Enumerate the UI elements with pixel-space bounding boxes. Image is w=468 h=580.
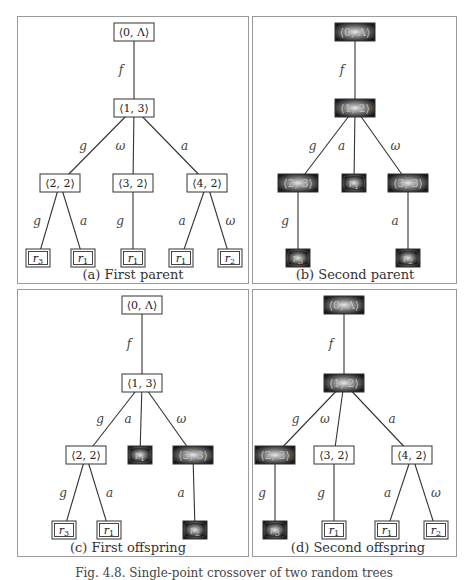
figure-caption: Fig. 4.8. Single-point crossover of two … [0, 566, 468, 580]
node-label: ⟨3, 2⟩ [319, 449, 349, 462]
leaf-node: r1 [169, 249, 193, 267]
tree-node: ⟨2, 2⟩ [40, 174, 80, 192]
edge [334, 383, 344, 455]
edge-label: g [292, 412, 300, 426]
tree-node: ⟨1, 3⟩ [114, 99, 154, 117]
edge-label: ω [116, 139, 126, 153]
edge [354, 108, 355, 183]
node-label: ⟨0, Λ⟩ [119, 26, 150, 39]
node-label: ⟨3, 2⟩ [118, 177, 148, 190]
node-label: ⟨2, 2⟩ [71, 449, 101, 462]
edge-label: g [33, 214, 41, 228]
edge [298, 108, 355, 183]
edge-label: a [338, 139, 345, 153]
edge-label: g [258, 486, 266, 500]
node-label: ⟨2, 3⟩ [260, 449, 290, 462]
edge [344, 383, 412, 455]
node-label: ⟨3, 3⟩ [393, 177, 423, 190]
edge-label: g [116, 214, 124, 228]
leaf-node: r1 [375, 521, 399, 539]
node-label: ⟨4, 2⟩ [397, 449, 427, 462]
edge [134, 108, 207, 183]
edge-label: g [59, 486, 67, 500]
leaf-node: r1 [71, 249, 95, 267]
node-label: ⟨3, 3⟩ [178, 449, 208, 462]
edge-label: ω [226, 214, 236, 228]
node-label: ⟨0, Λ⟩ [329, 299, 360, 312]
edge-label: ω [431, 486, 441, 500]
edge-label: ω [320, 412, 330, 426]
node-label: ⟨1, 3⟩ [119, 102, 149, 115]
node-label: ⟨1, 2⟩ [329, 377, 359, 390]
tree-node: ⟨4, 2⟩ [187, 174, 227, 192]
tree-node: ⟨0, Λ⟩ [122, 296, 162, 314]
edge-label: f [118, 63, 126, 77]
edge-label: ω [391, 139, 401, 153]
leaf-node: r2 [424, 521, 448, 539]
leaf-node: r1 [128, 446, 152, 464]
edge [38, 183, 60, 258]
edge-label: a [391, 214, 398, 228]
leaf-node: r3 [263, 521, 287, 539]
edge-label: f [126, 337, 134, 351]
edge-label: a [80, 214, 87, 228]
edge [86, 383, 142, 455]
edge [64, 455, 86, 530]
tree-node: ⟨3, 2⟩ [314, 446, 354, 464]
edge-label: a [106, 486, 113, 500]
tree-node: ⟨3, 2⟩ [113, 174, 153, 192]
edge-label: a [178, 214, 185, 228]
leaf-node: r3 [286, 249, 310, 267]
edge-label: g [281, 214, 289, 228]
node-label: ⟨4, 2⟩ [192, 177, 222, 190]
edge [140, 383, 142, 455]
leaf-node: r1 [342, 174, 366, 192]
edge [133, 108, 134, 183]
edge [275, 383, 344, 455]
edge-label: f [339, 63, 347, 77]
tree-node: ⟨4, 2⟩ [392, 446, 432, 464]
tree-node: ⟨2, 2⟩ [66, 446, 106, 464]
leaf-node: r2 [218, 249, 242, 267]
leaf-node: r1 [121, 249, 145, 267]
leaf-node: r2 [396, 249, 420, 267]
tree-node: ⟨2, 3⟩ [255, 446, 295, 464]
tree-node: ⟨1, 2⟩ [335, 99, 375, 117]
edge-label: a [388, 412, 395, 426]
leaf-node: r3 [26, 249, 50, 267]
edge-label: a [181, 139, 188, 153]
tree-node: ⟨0, Λ⟩ [335, 23, 375, 41]
leaf-node: r3 [52, 521, 76, 539]
edge-label: a [384, 486, 391, 500]
node-label: ⟨1, 3⟩ [127, 377, 157, 390]
tree-node: ⟨1, 3⟩ [122, 374, 162, 392]
tree-node: ⟨0, Λ⟩ [114, 23, 154, 41]
node-label: ⟨2, 3⟩ [283, 177, 313, 190]
tree-node: ⟨0, Λ⟩ [324, 296, 364, 314]
edge-label: g [317, 486, 325, 500]
leaf-node: r1 [97, 521, 121, 539]
edge-label: a [124, 412, 131, 426]
tree-node: ⟨1, 2⟩ [324, 374, 364, 392]
edge-label: f [328, 337, 336, 351]
edge-label: ω [177, 412, 187, 426]
tree-node: ⟨3, 3⟩ [388, 174, 428, 192]
edge-label: g [79, 139, 87, 153]
edge-label: a [177, 486, 184, 500]
tree-node: ⟨2, 3⟩ [278, 174, 318, 192]
edge-label: g [96, 412, 104, 426]
leaf-node: r2 [183, 521, 207, 539]
edge [193, 455, 195, 530]
edge-label: g [309, 139, 317, 153]
node-label: ⟨0, Λ⟩ [340, 26, 371, 39]
leaf-node: r1 [322, 521, 346, 539]
tree-node: ⟨3, 3⟩ [173, 446, 213, 464]
node-label: ⟨2, 2⟩ [45, 177, 75, 190]
node-label: ⟨0, Λ⟩ [127, 299, 158, 312]
node-label: ⟨1, 2⟩ [340, 102, 370, 115]
